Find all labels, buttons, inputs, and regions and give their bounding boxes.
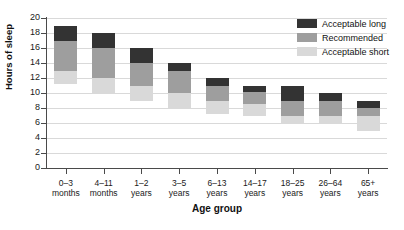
x-tick-mark — [179, 169, 180, 174]
bar-segment — [206, 78, 229, 86]
bar — [168, 18, 191, 168]
bar-segment — [130, 86, 153, 101]
legend-label: Recommended — [322, 33, 383, 43]
sleep-hours-chart: Hours of sleep 02468101214161820 0–3mont… — [0, 0, 404, 230]
x-tick-mark — [141, 169, 142, 174]
bar-segment — [54, 26, 77, 41]
y-tick-label: 0 — [6, 163, 40, 172]
x-tick-mark — [330, 169, 331, 174]
x-tick-label-line2: years — [345, 188, 391, 198]
y-tick-label: 16 — [6, 43, 40, 52]
bar-segment — [168, 63, 191, 71]
bar — [54, 18, 77, 168]
legend-swatch — [297, 33, 317, 42]
x-tick-mark — [104, 169, 105, 174]
y-tick-label-wrap: 4 — [0, 133, 40, 134]
legend-swatch — [297, 19, 317, 28]
y-tick-label: 14 — [6, 58, 40, 67]
x-axis-title: Age group — [47, 203, 387, 214]
y-tick-label: 12 — [6, 73, 40, 82]
bar-segment — [54, 41, 77, 71]
legend-item: Acceptable long — [297, 17, 389, 30]
bar-segment — [281, 86, 304, 101]
bar-segment — [130, 63, 153, 86]
bar-segment — [319, 93, 342, 101]
y-tick-label-wrap: 16 — [0, 43, 40, 44]
x-tick-mark — [255, 169, 256, 174]
bar — [206, 18, 229, 168]
bar-segment — [281, 101, 304, 116]
y-tick-label: 18 — [6, 28, 40, 37]
bar-segment — [168, 93, 191, 108]
legend-item: Acceptable short — [297, 45, 389, 58]
y-tick-label-wrap: 2 — [0, 148, 40, 149]
bar-segment — [243, 92, 266, 105]
bar-segment — [357, 101, 380, 109]
bar-segment — [357, 108, 380, 116]
bar-segment — [54, 71, 77, 85]
y-tick-label-wrap: 8 — [0, 103, 40, 104]
legend-swatch — [297, 47, 317, 56]
x-tick-mark — [368, 169, 369, 174]
x-tick-label: 65+years — [345, 178, 391, 198]
y-tick-label: 2 — [6, 148, 40, 157]
bar — [92, 18, 115, 168]
y-tick-label: 8 — [6, 103, 40, 112]
bar — [130, 18, 153, 168]
x-tick-label-line1: 65+ — [345, 178, 391, 188]
legend-label: Acceptable short — [322, 47, 389, 57]
y-tick-label: 6 — [6, 118, 40, 127]
y-tick-label: 4 — [6, 133, 40, 142]
y-tick-label-wrap: 12 — [0, 73, 40, 74]
bar-segment — [357, 116, 380, 131]
x-tick-mark — [217, 169, 218, 174]
bar-segment — [243, 104, 266, 115]
bar-segment — [206, 101, 229, 115]
legend-item: Recommended — [297, 31, 389, 44]
bar-segment — [319, 116, 342, 124]
x-tick-mark — [293, 169, 294, 174]
y-tick-label-wrap: 10 — [0, 88, 40, 89]
bar-segment — [206, 86, 229, 101]
y-tick-label-wrap: 14 — [0, 58, 40, 59]
bar-segment — [130, 48, 153, 63]
y-tick-label-wrap: 0 — [0, 163, 40, 164]
y-tick-label-wrap: 6 — [0, 118, 40, 119]
bar-segment — [92, 33, 115, 48]
x-tick-mark — [66, 169, 67, 174]
bar-segment — [281, 116, 304, 124]
bar-segment — [168, 71, 191, 94]
bar-segment — [92, 48, 115, 78]
legend-label: Acceptable long — [322, 19, 386, 29]
bar-segment — [319, 101, 342, 116]
legend: Acceptable longRecommendedAcceptable sho… — [297, 17, 389, 59]
bar-segment — [92, 78, 115, 93]
y-tick-label-wrap: 18 — [0, 28, 40, 29]
y-tick-label: 20 — [6, 13, 40, 22]
bar — [243, 18, 266, 168]
bar-segment — [243, 86, 266, 92]
y-tick-label: 10 — [6, 88, 40, 97]
y-tick-label-wrap: 20 — [0, 13, 40, 14]
